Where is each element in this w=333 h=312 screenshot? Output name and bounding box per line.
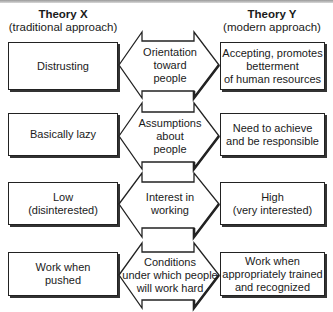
theory-x-text-2: Basically lazy xyxy=(30,128,96,141)
theory-y-box-1: Accepting, promotes betterment of human … xyxy=(220,42,325,90)
theory-y-text-2: Need to achieve and be responsible xyxy=(226,122,319,148)
dimension-label-4: Conditions under which people will work … xyxy=(117,251,223,299)
theory-y-title: Theory Y xyxy=(218,8,326,21)
theory-x-box-3: Low (disinterested) xyxy=(8,182,118,225)
theory-x-box-2: Basically lazy xyxy=(8,113,118,156)
theory-y-header: Theory Y (modern approach) xyxy=(218,8,326,34)
theory-y-text-3: High (very interested) xyxy=(233,191,312,217)
dimension-label-1: Orientation toward people xyxy=(117,41,223,89)
theory-x-title: Theory X xyxy=(8,8,118,21)
theory-x-text-1: Distrusting xyxy=(37,60,89,73)
theory-x-box-1: Distrusting xyxy=(8,42,118,90)
theory-y-text-1: Accepting, promotes betterment of human … xyxy=(222,47,322,86)
theory-x-text-3: Low (disinterested) xyxy=(28,191,98,217)
theory-x-header: Theory X (traditional approach) xyxy=(8,8,118,34)
theory-y-box-3: High (very interested) xyxy=(220,182,325,225)
theory-y-box-2: Need to achieve and be responsible xyxy=(220,113,325,156)
theory-y-box-4: Work when appropriately trained and reco… xyxy=(220,252,325,296)
dimension-label-3: Interest in working xyxy=(117,182,223,226)
theory-x-text-4: Work when pushed xyxy=(36,261,91,287)
top-edge-band xyxy=(0,0,333,3)
theory-x-box-4: Work when pushed xyxy=(8,252,118,296)
theory-y-subtitle: (modern approach) xyxy=(218,21,326,34)
theory-y-text-4: Work when appropriately trained and reco… xyxy=(222,255,322,294)
dimension-label-2: Assumptions about people xyxy=(117,112,223,160)
theory-x-subtitle: (traditional approach) xyxy=(8,21,118,34)
